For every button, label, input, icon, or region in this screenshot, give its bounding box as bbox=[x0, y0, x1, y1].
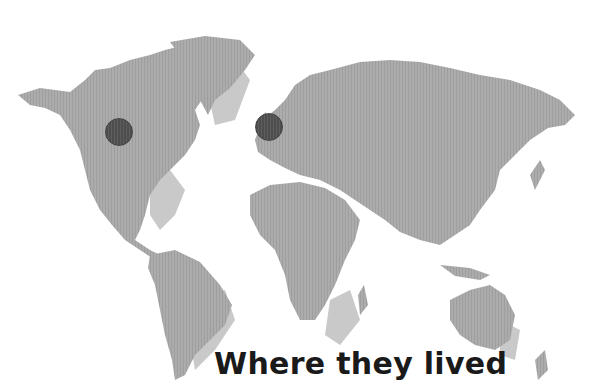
japan bbox=[530, 160, 545, 190]
madagascar bbox=[358, 285, 368, 315]
indonesia bbox=[440, 265, 490, 280]
world-map bbox=[0, 0, 615, 392]
world-map-land bbox=[0, 0, 615, 392]
new-zealand bbox=[535, 350, 548, 380]
australia bbox=[450, 285, 515, 350]
location-marker-north-america[interactable] bbox=[105, 118, 133, 146]
location-marker-western-europe[interactable] bbox=[255, 113, 283, 141]
map-caption: Where they lived bbox=[214, 346, 507, 381]
